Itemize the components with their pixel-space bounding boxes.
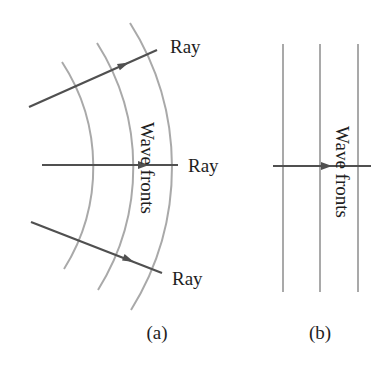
ray-label-bottom: Ray: [172, 268, 203, 289]
ray-b-arrowhead-icon: [321, 162, 332, 170]
ray-label-middle: Ray: [188, 155, 219, 176]
ray-top: [29, 50, 157, 107]
ray-top-arrowhead-icon: [117, 63, 129, 71]
wavefront-label-a: Wave fronts: [137, 122, 158, 214]
wavefront-label-b: Wave fronts: [332, 126, 353, 218]
caption-b: (b): [309, 322, 331, 344]
panel-a: Ray Ray Ray Wave fronts (a): [29, 23, 219, 344]
panel-b: Wave fronts (b): [273, 44, 371, 344]
ray-label-top: Ray: [170, 36, 201, 57]
caption-a: (a): [146, 322, 167, 344]
wavefront-diagram: Ray Ray Ray Wave fronts (a) Wave fronts …: [0, 0, 390, 370]
wavefront-arc-middle: [97, 43, 133, 290]
ray-bottom: [31, 222, 162, 273]
ray-bottom-arrowhead-icon: [122, 254, 134, 262]
